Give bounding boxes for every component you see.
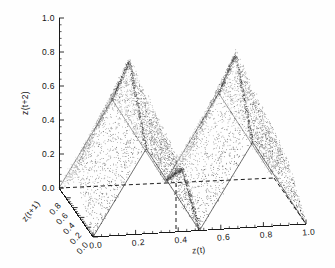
z-tick-label: 0.2 <box>42 149 55 159</box>
z-axis-ticks: 0.00.20.40.60.81.0 <box>42 13 64 193</box>
x-tick-label: 0.0 <box>89 240 103 251</box>
x-tick-label: 0.2 <box>131 237 145 248</box>
x-axis-title: z(t) <box>192 245 206 256</box>
z-axis-title: z(t+2) <box>20 91 30 115</box>
surface-profile <box>59 93 272 188</box>
z-tick-label: 0.0 <box>42 183 55 193</box>
z-tick-label: 0.8 <box>42 47 55 57</box>
x-tick-label: 1.0 <box>302 227 316 238</box>
z-tick-label: 1.0 <box>42 13 55 23</box>
surface-fold-edges <box>59 93 306 237</box>
scatter-point-cloud <box>59 49 305 236</box>
plot-svg: 0.00.20.40.60.81.0 0.00.20.40.60.81.0 0.… <box>0 0 335 268</box>
x-tick-label: 0.8 <box>259 229 273 240</box>
x-tick-label: 0.4 <box>174 234 188 245</box>
x-axis-line <box>93 224 306 237</box>
figure-canvas: 0.00.20.40.60.81.0 0.00.20.40.60.81.0 0.… <box>0 0 335 268</box>
z-tick-label: 0.6 <box>42 81 55 91</box>
z-tick-label: 0.4 <box>42 115 55 125</box>
y-axis-title: z(t+1) <box>19 199 42 224</box>
x-tick-label: 0.6 <box>217 232 231 243</box>
